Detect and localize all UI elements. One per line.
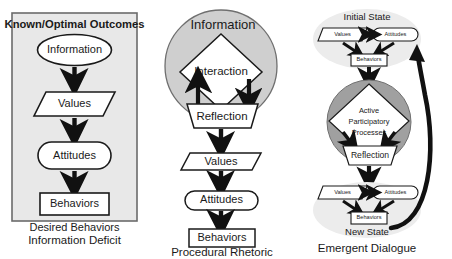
node-attitudes-label: Attitudes: [53, 149, 96, 161]
node-attitudes-label: Attitudes: [200, 193, 243, 205]
figure-three-communication-models: Known/Optimal Outcomes Information Value…: [0, 0, 452, 259]
panel-information-deficit: Known/Optimal Outcomes Information Value…: [0, 0, 150, 259]
node-active-participatory-processes-label-3: Processes: [352, 128, 387, 137]
node-information-label: Information: [47, 43, 102, 55]
initial-node-values-label: Values: [334, 31, 351, 37]
initial-node-attitudes-label: Attitudes: [385, 31, 407, 37]
information-circle-label: Information: [190, 17, 255, 32]
initial-node-behaviors-label: Behaviors: [357, 56, 382, 62]
node-values-label: Values: [58, 97, 91, 109]
panel-procedural-rhetoric: Information Interaction Reflection Value…: [150, 0, 295, 259]
node-behaviors-label: Behaviors: [50, 197, 99, 209]
panel-caption-procedural-rhetoric: Procedural Rhetoric: [171, 246, 273, 258]
panel-emergent-dialogue: Initial State Values Attitudes Behaviors…: [295, 0, 452, 259]
box-header-label: Known/Optimal Outcomes: [5, 18, 145, 30]
node-values-label: Values: [205, 155, 238, 167]
node-active-participatory-processes-label-1: Active: [359, 106, 379, 115]
node-reflection-label: Reflection: [196, 110, 247, 122]
node-reflection-label: Reflection: [351, 150, 389, 160]
box-footer-label: Desired Behaviors: [30, 221, 120, 233]
new-state-label: New State: [345, 226, 389, 237]
new-node-behaviors-label: Behaviors: [357, 214, 382, 220]
initial-state-label: Initial State: [344, 11, 391, 22]
new-node-attitudes-label: Attitudes: [385, 189, 407, 195]
panel-caption-emergent-dialogue: Emergent Dialogue: [318, 242, 416, 254]
new-node-values-label: Values: [334, 189, 351, 195]
node-interaction-label: Interaction: [194, 65, 248, 77]
panel-caption-information-deficit: Information Deficit: [28, 234, 121, 246]
node-behaviors-label: Behaviors: [198, 231, 247, 243]
node-active-participatory-processes-label-2: Participatory: [348, 117, 389, 126]
